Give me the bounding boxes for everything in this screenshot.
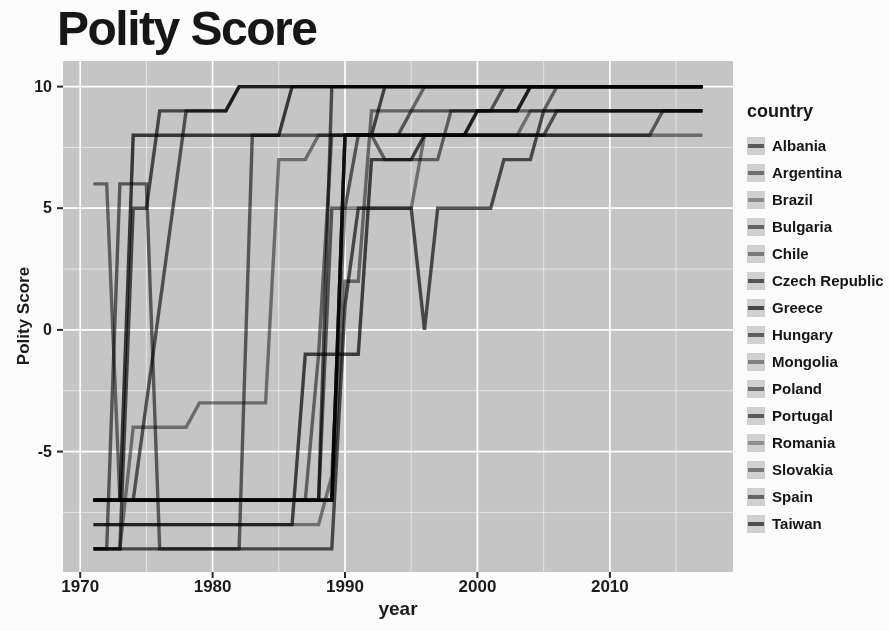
x-tick-label: 2010 bbox=[591, 577, 629, 597]
legend-key-line-icon bbox=[748, 495, 764, 499]
legend-item-label: Bulgaria bbox=[772, 218, 832, 235]
legend-item-label: Greece bbox=[772, 299, 823, 316]
legend-item-mongolia: Mongolia bbox=[747, 348, 887, 375]
legend-item-argentina: Argentina bbox=[747, 159, 887, 186]
legend-key-line-icon bbox=[748, 225, 764, 229]
legend-key-swatch bbox=[747, 191, 765, 209]
y-tick-label: -5 bbox=[38, 443, 52, 461]
legend-item-hungary: Hungary bbox=[747, 321, 887, 348]
legend-item-label: Argentina bbox=[772, 164, 842, 181]
legend-key-line-icon bbox=[748, 252, 764, 256]
legend-key-swatch bbox=[747, 380, 765, 398]
x-tick-labels: 19701980199020002010 bbox=[0, 577, 889, 597]
x-axis-title: year bbox=[63, 598, 733, 620]
legend-key-swatch bbox=[747, 488, 765, 506]
x-tick-label: 1990 bbox=[326, 577, 364, 597]
legend-item-chile: Chile bbox=[747, 240, 887, 267]
legend-key-swatch bbox=[747, 299, 765, 317]
y-tick-label: 0 bbox=[43, 321, 52, 339]
legend-key-line-icon bbox=[748, 279, 764, 283]
legend-key-swatch bbox=[747, 434, 765, 452]
legend-key-swatch bbox=[747, 515, 765, 533]
legend-item-albania: Albania bbox=[747, 132, 887, 159]
legend-item-taiwan: Taiwan bbox=[747, 510, 887, 537]
legend-item-slovakia: Slovakia bbox=[747, 456, 887, 483]
x-tick-label: 1980 bbox=[194, 577, 232, 597]
chart-svg bbox=[63, 61, 733, 572]
figure: Polity Score Polity Score -50510 1970198… bbox=[0, 0, 889, 631]
legend-key-line-icon bbox=[748, 171, 764, 175]
x-tick-label: 1970 bbox=[61, 577, 99, 597]
legend-item-label: Czech Republic bbox=[772, 272, 884, 289]
legend-item-label: Poland bbox=[772, 380, 822, 397]
legend-key-swatch bbox=[747, 326, 765, 344]
legend-key-line-icon bbox=[748, 522, 764, 526]
legend-item-label: Albania bbox=[772, 137, 826, 154]
legend-key-swatch bbox=[747, 272, 765, 290]
legend-item-label: Portugal bbox=[772, 407, 833, 424]
legend-key-line-icon bbox=[748, 198, 764, 202]
legend-key-line-icon bbox=[748, 360, 764, 364]
legend-key-swatch bbox=[747, 407, 765, 425]
legend-item-romania: Romania bbox=[747, 429, 887, 456]
legend-key-line-icon bbox=[748, 306, 764, 310]
legend-item-label: Spain bbox=[772, 488, 813, 505]
legend-key-swatch bbox=[747, 461, 765, 479]
legend-key-swatch bbox=[747, 137, 765, 155]
legend-item-label: Brazil bbox=[772, 191, 813, 208]
legend: country AlbaniaArgentinaBrazilBulgariaCh… bbox=[747, 101, 887, 537]
legend-item-spain: Spain bbox=[747, 483, 887, 510]
legend-item-greece: Greece bbox=[747, 294, 887, 321]
legend-key-swatch bbox=[747, 218, 765, 236]
legend-key-line-icon bbox=[748, 468, 764, 472]
legend-item-poland: Poland bbox=[747, 375, 887, 402]
plot-panel bbox=[63, 61, 733, 572]
legend-item-label: Romania bbox=[772, 434, 835, 451]
legend-item-label: Slovakia bbox=[772, 461, 833, 478]
legend-key-line-icon bbox=[748, 414, 764, 418]
legend-title: country bbox=[747, 101, 887, 122]
legend-items: AlbaniaArgentinaBrazilBulgariaChileCzech… bbox=[747, 132, 887, 537]
legend-item-label: Hungary bbox=[772, 326, 833, 343]
legend-key-swatch bbox=[747, 353, 765, 371]
x-tick-label: 2000 bbox=[459, 577, 497, 597]
legend-key-line-icon bbox=[748, 144, 764, 148]
y-tick-label: 5 bbox=[43, 199, 52, 217]
legend-item-label: Chile bbox=[772, 245, 809, 262]
legend-key-line-icon bbox=[748, 441, 764, 445]
y-tick-label: 10 bbox=[34, 78, 52, 96]
panel-background bbox=[63, 61, 733, 572]
legend-item-portugal: Portugal bbox=[747, 402, 887, 429]
legend-item-czech-republic: Czech Republic bbox=[747, 267, 887, 294]
legend-item-label: Taiwan bbox=[772, 515, 822, 532]
legend-item-brazil: Brazil bbox=[747, 186, 887, 213]
legend-key-swatch bbox=[747, 245, 765, 263]
legend-key-line-icon bbox=[748, 333, 764, 337]
y-tick-labels: -50510 bbox=[0, 0, 57, 631]
legend-item-bulgaria: Bulgaria bbox=[747, 213, 887, 240]
legend-key-line-icon bbox=[748, 387, 764, 391]
chart-title: Polity Score bbox=[57, 0, 316, 60]
legend-key-swatch bbox=[747, 164, 765, 182]
legend-item-label: Mongolia bbox=[772, 353, 838, 370]
